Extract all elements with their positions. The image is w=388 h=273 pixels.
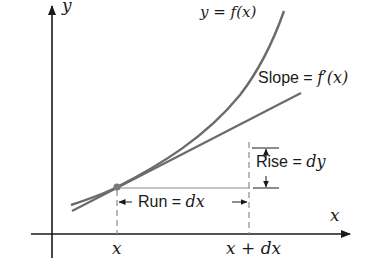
tick-label-x-plus-dx: x + dx [226,240,281,257]
rise-label-text: Rise = [256,153,306,170]
function-curve [71,11,284,205]
derivative-diagram [0,0,388,273]
x-axis-label: x [330,207,340,224]
tangent-point [113,183,120,190]
run-label: Run = dx [138,194,205,210]
run-label-var: dx [186,192,205,211]
y-axis-label: y [62,0,72,14]
curve-label: y = f(x) [200,5,256,20]
rise-label: Rise = dy [256,154,326,170]
tangent-slope-label: Slope = f′(x) [258,70,348,86]
rise-label-var: dy [306,152,325,171]
tick-label-x: x [112,240,122,257]
tangent-slope-expr: f′(x) [317,68,348,87]
run-label-text: Run = [138,193,186,210]
tangent-slope-text: Slope = [258,69,317,86]
